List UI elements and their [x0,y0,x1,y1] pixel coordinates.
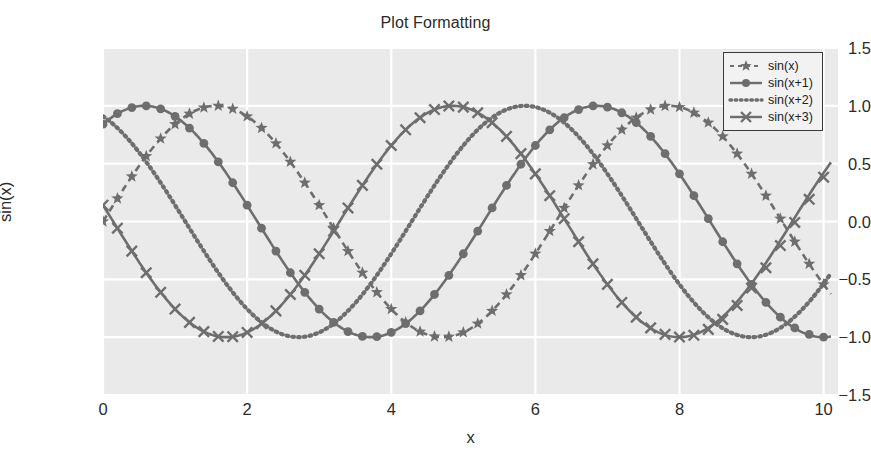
data-point-marker [243,201,252,210]
x-tick-label: 6 [505,400,565,419]
data-point-marker [126,170,138,182]
data-point-marker [155,287,165,297]
data-point-marker [285,289,295,299]
data-point-marker [113,109,122,118]
data-point-marker [199,139,208,148]
data-point-marker [314,249,324,259]
data-point-marker [617,297,627,307]
legend-entry[interactable]: sin(x+1) [728,74,818,91]
data-point-marker [155,132,167,144]
data-point-marker [286,268,295,277]
x-tick-label: 10 [794,400,854,419]
legend-entry[interactable]: sin(x+3) [728,108,818,125]
data-point-marker [805,330,814,339]
data-point-marker [517,160,526,169]
data-point-marker [111,192,123,204]
data-point-marker [357,180,367,190]
data-point-marker [372,332,381,341]
data-point-marker [142,101,151,110]
data-point-marker [257,224,266,233]
data-point-marker [675,169,684,178]
x-tick-label: 8 [649,400,709,419]
data-point-marker [343,203,353,213]
data-point-marker [790,324,799,333]
data-point-marker [112,223,122,233]
data-point-marker [502,181,511,190]
data-point-marker [358,332,367,341]
chart-legend[interactable]: sin(x)sin(x+1)sin(x+2)sin(x+3) [723,52,823,131]
data-point-marker [659,100,671,112]
x-tick-label: 0 [73,400,133,419]
data-point-marker [214,157,223,166]
data-point-marker [776,313,785,322]
data-point-marker [272,247,281,256]
data-point-marker [762,298,771,307]
data-point-marker [430,290,439,299]
data-point-marker [313,199,325,211]
data-point-marker [545,191,555,201]
data-point-marker [127,103,136,112]
data-point-marker [443,330,455,342]
data-point-marker [315,305,324,314]
data-point-marker [141,268,151,278]
data-point-marker [400,125,410,135]
data-point-marker [457,326,469,338]
data-point-marker [588,259,598,269]
data-point-marker [170,304,180,314]
data-point-marker [573,179,585,191]
data-point-marker [414,325,426,337]
legend-entry[interactable]: sin(x) [728,57,818,74]
legend-label: sin(x+1) [764,76,813,90]
data-point-marker [415,113,425,123]
legend-entry[interactable]: sin(x+2) [728,91,818,108]
data-point-marker [171,112,180,121]
data-point-marker [646,132,655,141]
data-point-marker [344,327,353,336]
data-point-marker [760,189,772,201]
legend-label: sin(x+2) [764,93,813,107]
data-point-marker [516,148,526,158]
data-point-marker [733,259,742,268]
data-point-marker [702,116,714,128]
data-point-marker [459,249,468,258]
data-point-marker [255,122,267,134]
legend-swatch-icon [728,92,764,108]
data-point-marker [617,108,626,117]
x-axis-label: x [103,428,838,447]
data-point-marker [718,237,727,246]
data-point-marker [545,125,554,134]
data-point-marker [616,123,628,135]
data-point-marker [819,333,828,342]
data-point-marker [199,326,209,336]
data-point-marker [300,288,309,297]
data-point-marker [212,99,224,111]
data-point-marker [589,102,598,111]
data-point-marker [645,323,655,333]
x-tick-label: 4 [361,400,421,419]
data-point-marker [472,317,484,329]
data-point-marker [531,141,540,150]
data-point-marker [574,105,583,114]
data-point-marker [127,246,137,256]
data-point-marker [501,131,511,141]
data-point-marker [632,118,641,127]
data-point-marker [184,317,194,327]
data-point-marker [661,149,670,158]
data-point-marker [631,312,641,322]
data-point-marker [603,103,612,112]
chart-figure: Plot Formatting sin(x) 1.51.00.50.0−0.5−… [0,0,871,465]
data-point-marker [185,124,194,133]
data-point-marker [488,204,497,213]
legend-label: sin(x) [764,59,799,73]
data-point-marker [156,104,165,113]
data-point-marker [416,307,425,316]
data-point-marker [704,214,713,223]
legend-swatch-icon [728,58,764,74]
data-point-marker [444,271,453,280]
data-point-marker [689,191,698,200]
legend-label: sin(x+3) [764,110,813,124]
data-point-marker [271,306,281,316]
data-point-marker [473,227,482,236]
data-point-marker [401,319,410,328]
data-point-marker [228,178,237,187]
